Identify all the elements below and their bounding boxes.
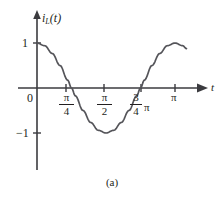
x-axis-label: t bbox=[211, 82, 214, 93]
figure-caption: (a) bbox=[0, 176, 224, 188]
figure-container: iL(t) t 1 −1 0 π 4 π 2 3 4 π π (a) bbox=[0, 0, 224, 200]
y-axis bbox=[33, 10, 41, 170]
fraction-denominator: 4 bbox=[130, 106, 142, 118]
fraction-numerator: 3 bbox=[130, 92, 142, 104]
y-axis-label-argument: (t) bbox=[50, 11, 61, 25]
plot-canvas bbox=[0, 0, 224, 200]
y-tick-label-negative-one: −1 bbox=[16, 127, 29, 139]
y-axis-label: iL(t) bbox=[42, 12, 61, 26]
x-tick-label-pi-over-4: π 4 bbox=[59, 92, 74, 117]
x-axis bbox=[18, 84, 208, 93]
y-tick-label-one: 1 bbox=[22, 37, 28, 49]
fraction-denominator: 2 bbox=[97, 106, 112, 118]
fraction-numerator: π bbox=[97, 92, 112, 104]
x-tick-label-three-pi-over-4: 3 4 π bbox=[130, 92, 154, 117]
x-tick-label-pi-over-2: π 2 bbox=[97, 92, 112, 117]
fraction-denominator: 4 bbox=[59, 106, 74, 118]
fraction-trailing-symbol: π bbox=[142, 95, 150, 114]
fraction-numerator: π bbox=[59, 92, 74, 104]
origin-label: 0 bbox=[27, 92, 33, 104]
fraction-box: 3 4 bbox=[130, 92, 142, 117]
x-tick-label-pi: π bbox=[171, 92, 177, 103]
